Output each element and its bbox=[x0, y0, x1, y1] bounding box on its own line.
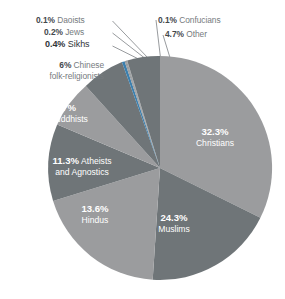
slice-percent-atheists: 11.3% bbox=[52, 155, 79, 166]
slice-label-christians: 32.3% Christians bbox=[178, 126, 252, 149]
callout-name-chinese: Chinese bbox=[74, 60, 104, 70]
slice-label-muslims: 24.3% Muslims bbox=[137, 212, 211, 235]
slice-label-hindus: 13.6% Hindus bbox=[62, 203, 128, 226]
slice-name-atheists: Atheists bbox=[81, 156, 112, 166]
slice-label-line-2: and Agnostics bbox=[22, 167, 142, 178]
callout-line-2: folk-religionists bbox=[8, 71, 104, 82]
callout-percent-confucians: 0.1% bbox=[158, 15, 177, 25]
callout-label-confucians: 0.1% Confucians bbox=[158, 15, 221, 26]
callout-percent-jews: 0.2% bbox=[44, 27, 63, 37]
slice-percent-buddhists: 7% bbox=[62, 102, 76, 113]
callout-label-other: 4.7% Other bbox=[165, 29, 207, 40]
callout-name-other: Other bbox=[186, 29, 207, 39]
pie-chart-svg bbox=[0, 0, 285, 299]
slice-percent-hindus: 13.6% bbox=[81, 203, 108, 214]
slice-name-muslims: Muslims bbox=[158, 224, 190, 234]
pie-chart-figure: 0.1% Daoists 0.2% Jews 0.4% Sikhs 6% Chi… bbox=[0, 0, 285, 299]
slice-label-atheists-and-agnostics: 11.3% Atheists and Agnostics bbox=[22, 155, 142, 178]
callout-name-daoists: Daoists bbox=[57, 15, 85, 25]
slice-name-christians: Christians bbox=[196, 138, 234, 148]
callout-name-jews: Jews bbox=[65, 27, 84, 37]
callout-label-daoists: 0.1% Daoists bbox=[36, 15, 85, 26]
callout-percent-chinese: 6% bbox=[59, 60, 71, 70]
slice-percent-christians: 32.3% bbox=[201, 126, 228, 137]
callout-percent-sikhs: 0.4% bbox=[45, 39, 65, 49]
callout-percent-daoists: 0.1% bbox=[36, 15, 55, 25]
callout-label-sikhs: 0.4% Sikhs bbox=[45, 39, 90, 50]
callout-label-jews: 0.2% Jews bbox=[44, 27, 84, 38]
slice-name-hindus: Hindus bbox=[82, 215, 109, 225]
callout-percent-other: 4.7% bbox=[165, 29, 184, 39]
callout-name-confucians: Confucians bbox=[179, 15, 220, 25]
slice-label-buddhists: 7% Buddhists bbox=[36, 102, 102, 125]
slice-label-line-1: 11.3% Atheists bbox=[22, 155, 142, 167]
callout-line-1: 6% Chinese bbox=[8, 60, 104, 71]
slice-percent-muslims: 24.3% bbox=[160, 212, 187, 223]
callout-name-sikhs: Sikhs bbox=[68, 39, 90, 49]
callout-label-chinese-folk-religionists: 6% Chinese folk-religionists bbox=[8, 60, 104, 81]
slice-name-buddhists: Buddhists bbox=[50, 114, 88, 124]
